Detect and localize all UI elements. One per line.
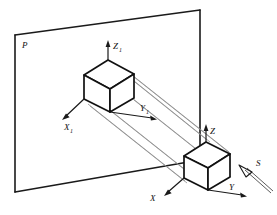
axis-y-arrowhead: [240, 193, 247, 198]
projected-cube: [84, 60, 134, 112]
axis-x-line: [168, 178, 184, 192]
figure-canvas: P Z 1 Y 1 X 1 Z Y X S: [0, 0, 277, 215]
plane-edge-bottom: [15, 160, 200, 192]
projection-ray-2b: [134, 77, 231, 154]
axis-y-line: [208, 190, 242, 195]
label-axis-y: Y: [229, 182, 235, 192]
label-axis-z: Z: [210, 126, 216, 136]
axis-y1-arrowhead: [150, 116, 157, 121]
axis-z1-arrowhead: [106, 40, 111, 47]
label-axis-x: X: [149, 193, 156, 203]
label-projection-direction-s: S: [256, 158, 261, 168]
axis-x1-line: [66, 99, 84, 116]
plane-edge-top: [15, 10, 200, 35]
s-arrow-shaft-a: [245, 170, 271, 193]
label-axis-y1-subscript: 1: [146, 109, 149, 115]
label-axis-z1-subscript: 1: [119, 47, 122, 53]
label-axis-x1: X: [63, 122, 70, 132]
label-axis-x1-subscript: 1: [70, 128, 73, 134]
axis-z-arrowhead: [204, 124, 209, 131]
projection-diagram: P Z 1 Y 1 X 1 Z Y X S: [0, 0, 277, 215]
projection-direction-arrow: [239, 165, 273, 193]
label-plane-p: P: [21, 40, 28, 50]
projection-ray-5b: [90, 106, 187, 183]
object-cube: [184, 142, 230, 190]
